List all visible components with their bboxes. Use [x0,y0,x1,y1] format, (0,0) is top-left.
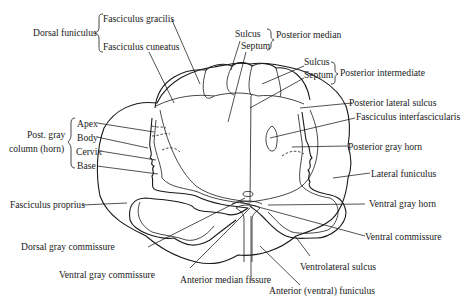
label-dorsal-funiculus: Dorsal funiculus [33,27,97,38]
anterior-median-fissure [232,201,262,262]
label-body: Body [77,132,98,143]
label-fasciculus-gracilis: Fasciculus gracilis [103,13,174,24]
label-lateral-funiculus: Lateral funiculus [371,168,437,179]
label-ventral-gray-horn: Ventral gray horn [369,198,436,209]
label-fasciculus-interfascicularis: Fasciculus interfascicularis [356,111,460,122]
label-ventral-commissure: Ventral commissure [365,231,441,242]
label-posterior-median: Posterior median [276,29,341,40]
label-ventral-gray-commissure: Ventral gray commissure [59,269,155,280]
label-posterior-lateral-sulcus: Posterior lateral sulcus [349,97,437,108]
label-septum-median: Septum [241,40,271,51]
spinal-cord-diagram: Dorsal funiculus Fasciculus gracilis Fas… [0,0,463,304]
label-septum-intermediate: Septum [304,69,334,80]
labels: Dorsal funiculus Fasciculus gracilis Fas… [9,13,460,297]
label-dorsal-gray-commissure: Dorsal gray commissure [21,241,115,252]
label-base: Base [77,160,96,171]
label-posterior-gray-horn: Posterior gray horn [348,141,422,152]
label-sulcus-median: Sulcus [235,28,261,39]
label-apex: Apex [77,118,98,129]
label-fasciculus-cuneatus: Fasciculus cuneatus [103,41,180,52]
label-anterior-ventral-funiculus: Anterior (ventral) funiculus [269,285,375,297]
label-fasciculus-proprius: Fasciculus proprius [10,199,85,210]
label-anterior-median-fissure: Anterior median fissure [180,274,271,285]
label-posterior-intermediate: Posterior intermediate [340,67,425,78]
label-sulcus-intermediate: Sulcus [304,56,330,67]
label-cervix: Cervix [76,146,102,157]
gray-matter [130,112,346,245]
label-ventrolateral-sulcus: Ventrolateral sulcus [300,261,376,272]
label-post-gray-column-line1: Post. gray [27,129,66,140]
label-post-gray-column-line2: column (horn) [9,143,64,155]
